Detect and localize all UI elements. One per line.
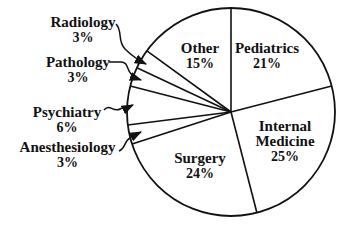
label-psychiatry-pct: 6% (12, 120, 122, 136)
label-surgery-name: Surgery (154, 151, 246, 166)
label-surgery: Surgery 24% (154, 151, 246, 181)
label-internal-medicine-pct: 25% (239, 149, 331, 164)
label-radiology-pct: 3% (28, 30, 138, 46)
label-anesthesiology-pct: 3% (10, 155, 125, 171)
label-pathology-name: Pathology (23, 54, 133, 70)
label-internal-medicine: Internal Medicine 25% (239, 119, 331, 164)
label-radiology-name: Radiology (28, 14, 138, 30)
label-internal-medicine-line2: Medicine (239, 134, 331, 149)
label-anesthesiology: Anesthesiology 3% (10, 139, 125, 171)
label-pediatrics-pct: 21% (222, 56, 312, 71)
label-psychiatry: Psychiatry 6% (12, 104, 122, 136)
label-pathology: Pathology 3% (23, 54, 133, 86)
label-psychiatry-name: Psychiatry (12, 104, 122, 120)
pie-chart-figure: Radiology 3% Pathology 3% Psychiatry 6% … (0, 0, 342, 232)
pie-slices (127, 8, 335, 216)
label-pathology-pct: 3% (23, 70, 133, 86)
label-radiology: Radiology 3% (28, 14, 138, 46)
label-anesthesiology-name: Anesthesiology (10, 139, 125, 155)
label-pediatrics: Pediatrics 21% (222, 41, 312, 71)
label-surgery-pct: 24% (154, 166, 246, 181)
label-pediatrics-name: Pediatrics (222, 41, 312, 56)
label-internal-medicine-line1: Internal (239, 119, 331, 134)
